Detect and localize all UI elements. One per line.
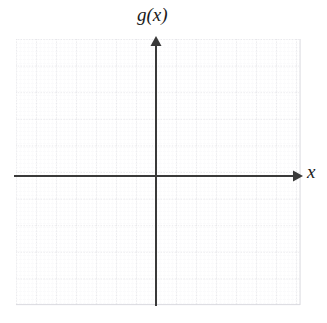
grid-bottom-edge — [16, 304, 300, 305]
grid-right-edge — [300, 39, 301, 305]
grid-layer — [16, 39, 301, 305]
x-axis-label: x — [307, 161, 315, 183]
graph-figure: g(x) x — [0, 0, 327, 323]
coordinate-plane-svg — [0, 0, 327, 323]
y-axis-label: g(x) — [137, 4, 168, 26]
major-grid — [16, 39, 300, 305]
